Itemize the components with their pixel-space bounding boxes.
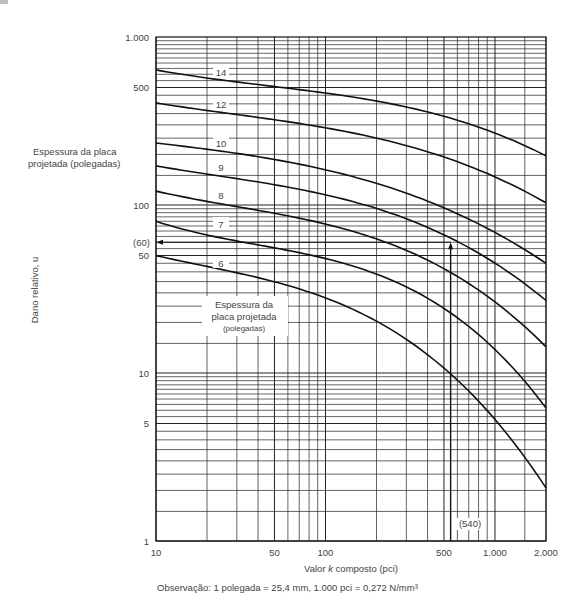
x-tick-label: 100 [318,547,334,558]
x-tick-label: 500 [436,547,452,558]
legend-title-outer-line2: projetada (polegadas) [28,158,120,169]
legend-title-inner-line2: placa projetada [212,311,278,322]
x-tick-label: 50 [269,547,280,558]
curve-label-6: 6 [218,258,223,269]
y-tick-label: 500 [133,82,149,93]
curve-label-9: 9 [218,162,223,173]
x-tick-label: 10 [151,547,162,558]
marker-y-label: (60) [133,237,150,248]
legend-title-inner-line3: (polegadas) [223,324,266,333]
y-tick-label: 1.000 [125,32,149,43]
curve-label-14: 14 [216,67,227,78]
y-axis-label: Dano relativo, u [29,257,40,324]
x-axis-label: Valor k composto (pci) [304,563,398,574]
x-tick-label: 1.000 [483,547,507,558]
x-tick-label: 2.000 [534,547,558,558]
y-tick-label: 100 [133,200,149,211]
legend-title-inner-line1: Espessura da [215,299,274,310]
curve-label-10: 10 [216,138,227,149]
legend-title-outer-line1: Espessura da placa [33,146,117,157]
footnote: Observação: 1 polegada = 25,4 mm, 1.000 … [157,582,418,593]
grid [156,37,546,541]
y-tick-label: 50 [138,250,149,261]
y-tick-label: 10 [138,368,149,379]
curve-label-8: 8 [218,190,223,201]
chart: 1412109876 1510501005001.00010501005001.… [0,0,586,608]
marker-x-label: (540) [459,518,481,529]
axis-ticks: 1510501005001.00010501005001.0002.000 [125,32,558,559]
curve-label-7: 7 [218,219,223,230]
y-tick-label: 1 [144,536,149,547]
marker-arrow [156,240,453,541]
curve-label-12: 12 [216,99,227,110]
y-tick-label: 5 [144,418,149,429]
